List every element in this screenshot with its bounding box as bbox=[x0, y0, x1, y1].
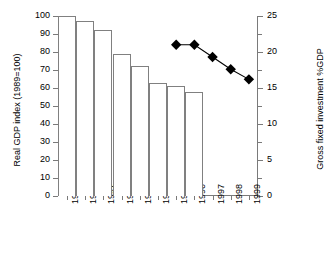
y-tick-right-minor bbox=[258, 34, 262, 35]
y-tick-label-right: 0 bbox=[267, 191, 272, 200]
y-tick-label-right: 5 bbox=[267, 155, 272, 164]
y-tick-label-left: 20 bbox=[40, 155, 50, 164]
y-tick-label-left: 60 bbox=[40, 83, 50, 92]
y-tick-label-right: 15 bbox=[267, 83, 277, 92]
plot-area: 1009080706050403020100 2520151050 198919… bbox=[58, 16, 258, 196]
y-tick-label-left: 70 bbox=[40, 65, 50, 74]
y-tick-label-right: 25 bbox=[267, 11, 277, 20]
line-series bbox=[58, 16, 258, 196]
y-tick-label-left: 10 bbox=[40, 173, 50, 182]
data-point-marker bbox=[207, 52, 217, 62]
data-point-marker bbox=[226, 64, 236, 74]
y-tick-label-left: 90 bbox=[40, 29, 50, 38]
y-tick-left bbox=[53, 196, 58, 197]
y-tick-label-right: 10 bbox=[267, 119, 277, 128]
y-axis-right-title: Gross fixed investment %GDP bbox=[315, 29, 325, 189]
y-axis-left-title: Real GDP index (1989=100) bbox=[12, 35, 22, 185]
y-tick-label-left: 50 bbox=[40, 101, 50, 110]
y-tick-label-left: 100 bbox=[35, 11, 50, 20]
y-tick-right-minor bbox=[258, 142, 262, 143]
data-point-marker bbox=[171, 40, 181, 50]
y-tick-label-left: 30 bbox=[40, 137, 50, 146]
y-tick-label-left: 0 bbox=[45, 191, 50, 200]
y-tick-label-left: 40 bbox=[40, 119, 50, 128]
y-tick-label-right: 20 bbox=[267, 47, 277, 56]
data-point-marker bbox=[244, 74, 254, 84]
y-tick-right-minor bbox=[258, 70, 262, 71]
y-tick-label-left: 80 bbox=[40, 47, 50, 56]
y-tick-right-minor bbox=[258, 106, 262, 107]
data-point-marker bbox=[189, 40, 199, 50]
y-tick-right-minor bbox=[258, 178, 262, 179]
